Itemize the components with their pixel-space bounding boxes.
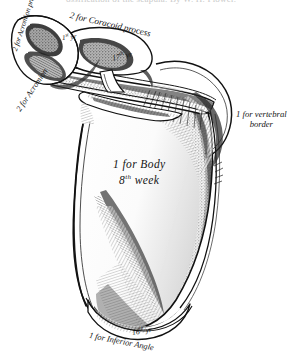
vertebral-border-ticks	[214, 162, 223, 184]
first-year-unit: yr	[70, 33, 77, 42]
first-year-ordinal: st	[65, 32, 69, 37]
label-body: 1 for Body 8th week	[113, 158, 166, 187]
body-line1: 1 for Body	[113, 158, 166, 170]
seventeenth-year-ordinal: th	[119, 50, 124, 57]
label-first-year: 1st yr	[62, 31, 77, 43]
label-vertebral-border: 1 for vertebral border	[236, 110, 287, 129]
sixteenth-year-ordinal: th	[139, 325, 144, 332]
vertebral-border-line1: 1 for vertebral	[236, 109, 287, 119]
body-week-unit: week	[135, 174, 160, 186]
sixteenth-year-unit: yr	[145, 325, 153, 335]
body-line2: 8th week	[119, 174, 166, 187]
body-week-ordinal: th	[125, 173, 131, 181]
vertebral-border-line2: border	[236, 120, 287, 130]
